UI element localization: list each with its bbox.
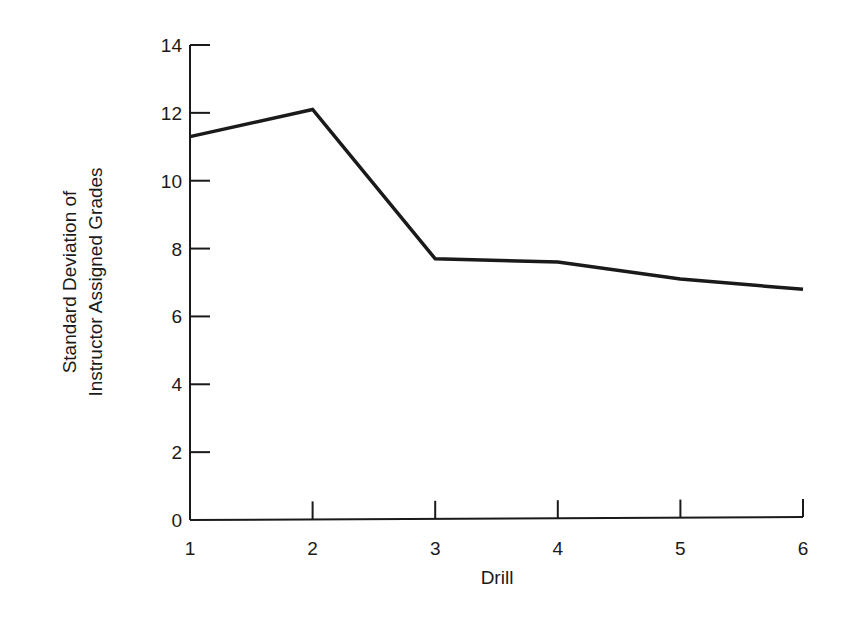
x-axis: 123456 xyxy=(185,499,809,559)
y-tick-label: 12 xyxy=(161,103,182,124)
y-tick-label: 2 xyxy=(171,442,182,463)
x-tick-label: 6 xyxy=(798,538,809,559)
line-chart: 02468101214 123456 Drill Standard Deviat… xyxy=(0,0,844,617)
y-tick-label: 0 xyxy=(171,510,182,531)
y-tick-label: 14 xyxy=(161,35,183,56)
y-axis-title-line-2: Instructor Assigned Grades xyxy=(85,167,106,396)
y-tick-label: 10 xyxy=(161,171,182,192)
series-line xyxy=(190,110,803,290)
y-axis-title-line-1: Standard Deviation of xyxy=(59,190,80,373)
x-tick-label: 3 xyxy=(430,538,441,559)
x-axis-title: Drill xyxy=(481,567,514,588)
data-series xyxy=(190,110,803,290)
x-axis-line xyxy=(190,517,803,520)
axis-titles: Drill Standard Deviation of Instructor A… xyxy=(59,167,513,588)
x-tick-label: 1 xyxy=(185,538,196,559)
y-tick-label: 4 xyxy=(171,374,182,395)
x-tick-label: 2 xyxy=(307,538,318,559)
y-axis: 02468101214 xyxy=(161,35,210,531)
y-tick-label: 8 xyxy=(171,239,182,260)
x-tick-label: 5 xyxy=(675,538,686,559)
x-tick-label: 4 xyxy=(553,538,564,559)
y-tick-label: 6 xyxy=(171,306,182,327)
